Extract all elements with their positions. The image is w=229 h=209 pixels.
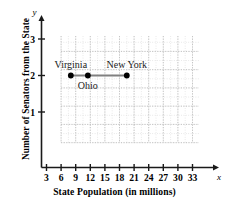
plot-area: 3691215182124273033123 xy VirginiaOhioNe… [0,0,229,209]
x-tick-label: 33 [188,172,198,183]
x-tick-label: 15 [100,172,110,183]
y-tick-label: 3 [30,34,35,45]
y-axis-variable: y [32,7,37,17]
x-tick-label: 18 [115,172,125,183]
x-tick-label: 24 [144,172,154,183]
x-tick-label: 12 [86,172,96,183]
y-tick-label: 2 [30,70,35,81]
x-tick-label: 9 [73,172,78,183]
data-point-label: New York [107,59,148,70]
data-point [85,73,91,79]
data-point [68,73,74,79]
x-tick-label: 3 [44,172,49,183]
data-point-label: Virginia [55,59,88,70]
chart-figure: Number of Senators from the State State … [0,0,229,209]
data-point-label: Ohio [78,80,98,91]
x-tick-label: 30 [173,172,183,183]
x-tick-label: 27 [159,172,169,183]
data-point [124,73,130,79]
x-tick-label: 21 [129,172,139,183]
axis-tick-labels: 3691215182124273033123 [30,34,197,183]
x-tick-label: 6 [59,172,64,183]
x-axis-variable: x [216,172,221,182]
y-tick-label: 1 [30,107,35,118]
axis-lines [39,15,220,171]
